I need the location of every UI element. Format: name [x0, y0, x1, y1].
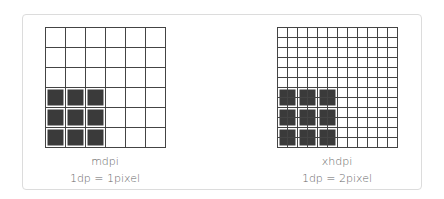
- mdpi-pixel-grid: [45, 27, 166, 148]
- dp-square: [68, 110, 84, 126]
- xhdpi-pixel-grid: [277, 27, 398, 148]
- dp-square: [48, 90, 64, 106]
- mdpi-density-label: mdpi: [25, 155, 185, 168]
- dp-square: [68, 90, 84, 106]
- dp-square: [48, 110, 64, 126]
- dp-square: [88, 90, 104, 106]
- dp-square: [88, 130, 104, 146]
- xhdpi-ratio-label: 1dp = 2pixel: [257, 172, 417, 185]
- dp-square: [88, 110, 104, 126]
- xhdpi-density-label: xhdpi: [257, 155, 417, 168]
- dp-square: [68, 130, 84, 146]
- mdpi-ratio-label: 1dp = 1pixel: [25, 172, 185, 185]
- dp-square: [48, 130, 64, 146]
